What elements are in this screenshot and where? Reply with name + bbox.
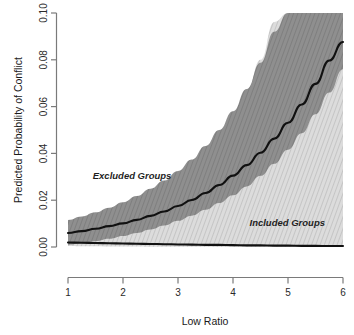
included-groups-label: Included Groups: [250, 217, 325, 228]
y-tick-label: 0.08: [38, 50, 49, 70]
x-tick-label: 2: [120, 287, 126, 298]
x-tick-label: 1: [65, 287, 71, 298]
y-axis-title: Predicted Probability of Conflict: [12, 57, 24, 203]
predicted-probability-line-chart: 0.000.020.040.060.080.10 Predicted Proba…: [0, 0, 354, 335]
y-tick-label: 0.00: [38, 237, 49, 257]
x-tick-label: 4: [230, 287, 236, 298]
x-axis-title: Low Ratio: [182, 315, 229, 327]
y-tick-label: 0.10: [38, 3, 49, 23]
y-tick-label: 0.04: [38, 143, 49, 163]
x-tick-label: 3: [175, 287, 181, 298]
chart-figure: 0.000.020.040.060.080.10 Predicted Proba…: [0, 0, 354, 335]
y-tick-label: 0.06: [38, 96, 49, 116]
x-tick-label: 6: [340, 287, 346, 298]
excluded-groups-label: Excluded Groups: [93, 170, 172, 181]
y-tick-label: 0.02: [38, 190, 49, 210]
x-tick-label: 5: [285, 287, 291, 298]
